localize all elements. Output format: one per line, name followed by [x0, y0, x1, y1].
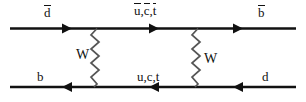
w-boson-propagator-right — [192, 29, 200, 88]
label-bottom-internal-quarks: u,c,t — [137, 70, 159, 83]
feynman-diagram: d u,c,t b b u,c,t d W W — [0, 0, 306, 102]
w-boson-propagator-left — [91, 29, 99, 88]
label-w-boson-right: W — [204, 52, 217, 66]
label-top-mid-u: u — [134, 4, 141, 17]
label-w-boson-left: W — [76, 48, 89, 62]
label-top-left-text: d — [44, 6, 51, 19]
top-right-arrowhead — [233, 24, 243, 34]
label-top-right-text: b — [258, 6, 265, 19]
top-middle-arrowhead — [149, 24, 159, 34]
label-top-right-antibottom: b — [258, 6, 265, 19]
label-top-mid-t: t — [153, 4, 157, 17]
bottom-left-arrowhead — [62, 82, 72, 92]
label-bottom-left-bottom: b — [37, 70, 44, 83]
label-top-internal-antiquarks: u,c,t — [134, 4, 156, 17]
label-top-mid-c: c — [144, 4, 150, 17]
label-top-left-antidown: d — [44, 6, 51, 19]
label-bottom-right-down: d — [262, 70, 269, 83]
top-left-arrowhead — [62, 24, 72, 34]
bottom-right-arrowhead — [233, 82, 243, 92]
